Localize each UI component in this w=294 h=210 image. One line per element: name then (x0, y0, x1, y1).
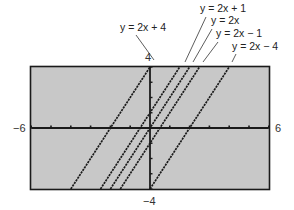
xmin-label: −6 (13, 122, 26, 134)
label-2x-plus-4: y = 2x + 4 (120, 21, 166, 33)
label-2x-minus-4: y = 2x − 4 (232, 40, 278, 52)
xmax-label: 6 (275, 122, 281, 134)
leader-line-4 (232, 54, 236, 62)
label-2x-plus-1: y = 2x + 1 (200, 2, 246, 14)
label-2x: y = 2x (211, 14, 240, 26)
leader-line-1 (185, 17, 206, 62)
ymax-label: 4 (145, 51, 151, 63)
graphing-calculator-chart: −6 6 4 −4 y = 2x + 4 y = 2x + 1 y = 2x y… (0, 0, 294, 210)
leader-line-2 (193, 29, 212, 62)
label-2x-minus-1: y = 2x − 1 (216, 27, 262, 39)
leader-line-3 (203, 42, 218, 62)
ymin-label: −4 (143, 195, 156, 207)
